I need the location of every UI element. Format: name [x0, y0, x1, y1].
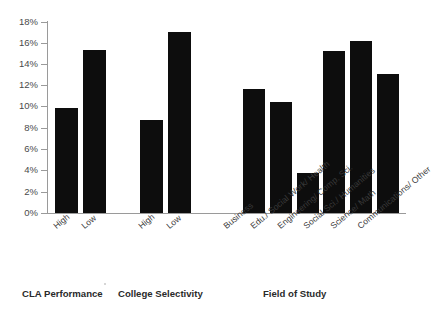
- bar-cla-low[interactable]: [83, 50, 106, 213]
- x-label-cla-low: Low: [80, 214, 98, 231]
- scan-speck: [104, 283, 106, 285]
- bar-cla-high[interactable]: [55, 108, 78, 213]
- y-tick-0: [41, 213, 47, 214]
- x-label-selectivity-high: High: [137, 212, 157, 231]
- bar-selectivity-high[interactable]: [140, 120, 163, 213]
- group-title-college-selectivity: College Selectivity: [118, 288, 203, 299]
- bars-layer: [0, 0, 411, 213]
- x-label-selectivity-low: Low: [165, 214, 183, 231]
- group-title-cla-performance: CLA Performance: [22, 288, 103, 299]
- x-label-cla-high: High: [52, 212, 72, 231]
- bar-field-business[interactable]: [243, 89, 265, 213]
- bar-selectivity-low[interactable]: [168, 32, 191, 213]
- group-title-field-of-study: Field of Study: [263, 288, 326, 299]
